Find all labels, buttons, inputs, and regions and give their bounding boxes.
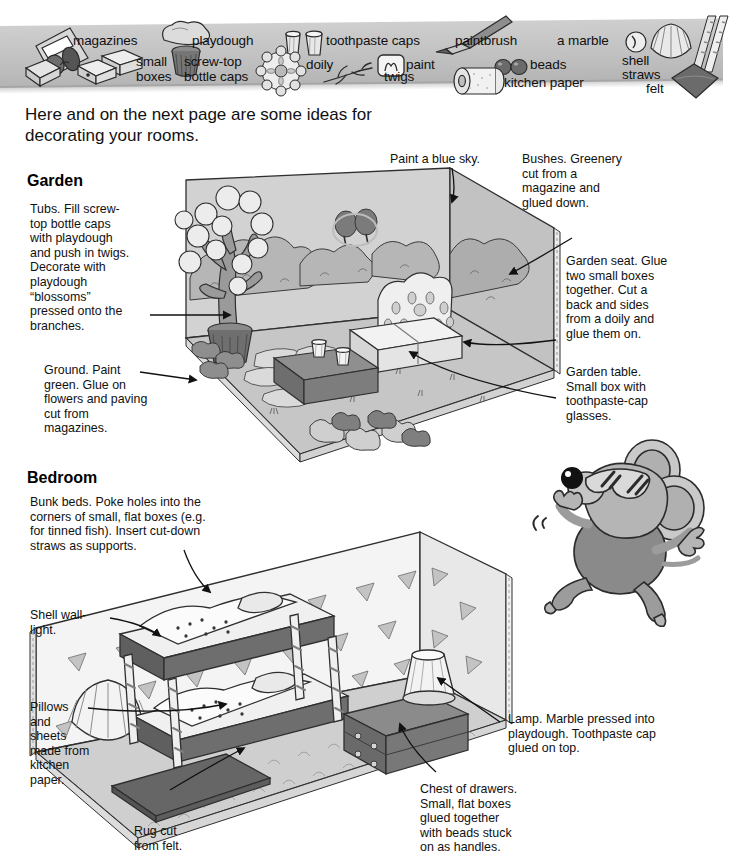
material-label-straws: straws bbox=[622, 68, 660, 82]
kitchen-paper-roll-icon bbox=[452, 64, 510, 100]
material-label-toothpaste-caps: toothpaste caps bbox=[326, 34, 420, 48]
material-label-small-boxes: small boxes bbox=[136, 54, 172, 84]
callout-blue-sky: Paint a blue sky. bbox=[390, 152, 530, 167]
material-label-playdough: playdough bbox=[192, 34, 253, 48]
callout-shell-wall-light: Shell wall- light. bbox=[30, 608, 120, 637]
callout-pillows-sheets: Pillows and sheets made from kitchen pap… bbox=[30, 700, 120, 788]
bedroom-section-heading: Bedroom bbox=[27, 469, 97, 487]
callout-lamp: Lamp. Marble pressed into playdough. Too… bbox=[508, 712, 718, 756]
material-label-a-marble: a marble bbox=[557, 34, 609, 48]
material-label-paint: paint bbox=[406, 58, 435, 72]
callout-bunk-beds: Bunk beds. Poke holes into the corners o… bbox=[30, 495, 330, 553]
callout-bushes: Bushes. Greenery cut from a magazine and… bbox=[522, 152, 652, 210]
material-label-kitchen-paper: kitchen paper bbox=[504, 76, 584, 90]
intro-text: Here and on the next page are some ideas… bbox=[25, 104, 445, 146]
material-label-shell: shell bbox=[622, 54, 649, 68]
marble-icon bbox=[624, 30, 648, 54]
material-label-felt: felt bbox=[646, 82, 664, 96]
callout-garden-table: Garden table. Small box with toothpaste-… bbox=[566, 365, 706, 423]
garden-room-illustration bbox=[150, 158, 580, 468]
shell-icon bbox=[648, 22, 694, 62]
material-label-magazines: magazines bbox=[73, 34, 137, 48]
material-label-doily: doily bbox=[306, 58, 333, 72]
material-label-screw-top-caps: screw-top bottle caps bbox=[184, 54, 248, 84]
material-label-twigs: twigs bbox=[384, 70, 414, 84]
felt-square-icon bbox=[668, 62, 722, 102]
callout-rug: Rug cut from felt. bbox=[134, 824, 244, 853]
cartoon-mouse-with-sunglasses bbox=[524, 432, 724, 627]
garden-section-heading: Garden bbox=[27, 172, 83, 190]
callout-ground: Ground. Paint green. Glue on flowers and… bbox=[44, 363, 184, 436]
callout-tubs: Tubs. Fill screw- top bottle caps with p… bbox=[30, 202, 180, 333]
callout-garden-seat: Garden seat. Glue two small boxes togeth… bbox=[566, 254, 706, 342]
callout-chest-of-drawers: Chest of drawers. Small, flat boxes glue… bbox=[420, 782, 570, 855]
doily-icon bbox=[256, 48, 306, 94]
material-label-beads: beads bbox=[530, 58, 566, 72]
material-label-paintbrush: paintbrush bbox=[455, 34, 517, 48]
materials-banner: magazines small boxes playdough screw-to… bbox=[0, 0, 723, 110]
